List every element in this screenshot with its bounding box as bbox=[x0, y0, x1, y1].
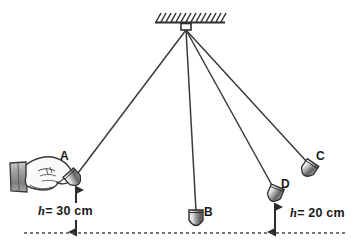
string-to-bob-d bbox=[186, 30, 273, 187]
height-label-a: h= 30 cm bbox=[38, 205, 93, 218]
bob-label-a: A bbox=[60, 150, 69, 162]
height-label-d: h= 20 cm bbox=[290, 207, 345, 220]
pivot-block bbox=[181, 24, 191, 31]
string-to-bob-b bbox=[186, 30, 196, 211]
pendulum-diagram: A B C D h= 30 cm h= 20 cm bbox=[0, 0, 359, 244]
bob-label-d: D bbox=[281, 178, 290, 190]
ceiling-hatching bbox=[156, 13, 226, 22]
string-to-bob-c bbox=[186, 30, 307, 162]
bob-b bbox=[189, 210, 203, 226]
height-value-a: = 30 cm bbox=[45, 204, 93, 218]
bob-label-c: C bbox=[316, 150, 325, 162]
bob-label-b: B bbox=[204, 206, 213, 218]
ceiling-support bbox=[155, 13, 226, 30]
height-value-d: = 20 cm bbox=[297, 206, 345, 220]
string-to-bob-a bbox=[75, 30, 186, 177]
